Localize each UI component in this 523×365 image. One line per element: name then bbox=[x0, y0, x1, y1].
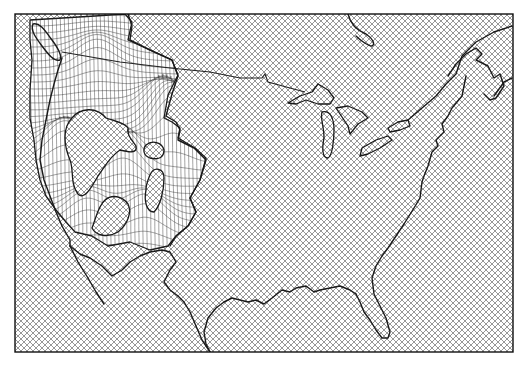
lake-michigan bbox=[321, 112, 334, 158]
terrain-basin bbox=[144, 142, 164, 158]
mesh-line bbox=[20, 8, 215, 12]
us-wireframe-map bbox=[0, 0, 523, 365]
